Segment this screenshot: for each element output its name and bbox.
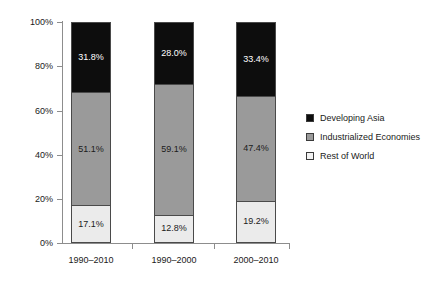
- legend-item-rest-of-world[interactable]: Rest of World: [306, 148, 420, 163]
- segment-value-label: 12.8%: [161, 224, 187, 233]
- legend-swatch-icon: [306, 114, 314, 122]
- x-axis-label-1990-2000: 1990–2000: [129, 255, 219, 265]
- legend-label: Rest of World: [320, 151, 374, 161]
- y-axis-label-80: 80%: [13, 61, 53, 71]
- legend-item-industrialized-economies[interactable]: Industrialized Economies: [306, 129, 420, 144]
- y-axis-label-100: 100%: [13, 17, 53, 27]
- segment-developing-asia-1990-2010[interactable]: 31.8%: [71, 22, 111, 92]
- x-axis-tick-2: [289, 244, 290, 249]
- y-axis-tick-60: [57, 111, 62, 112]
- y-axis-tick-80: [57, 66, 62, 67]
- segment-value-label: 19.2%: [243, 217, 269, 226]
- bar-1990-2010[interactable]: 31.8% 51.1% 17.1%: [71, 22, 111, 243]
- stacked-bar-chart: 100% 80% 60% 40% 20% 0% 1990–2010 1990–2…: [0, 0, 437, 284]
- y-axis-tick-100: [57, 22, 62, 23]
- y-axis-label-60: 60%: [13, 106, 53, 116]
- x-axis-label-2000-2010: 2000–2010: [211, 255, 301, 265]
- segment-rest-of-world-2000-2010[interactable]: 19.2%: [236, 201, 276, 243]
- plot-area: 31.8% 51.1% 17.1% 28.0% 59.1% 12.8%: [63, 22, 290, 243]
- segment-value-label: 47.4%: [243, 144, 269, 153]
- chart-legend: Developing Asia Industrialized Economies…: [306, 110, 420, 167]
- segment-rest-of-world-1990-2010[interactable]: 17.1%: [71, 205, 111, 243]
- segment-value-label: 28.0%: [161, 49, 187, 58]
- y-axis-tick-20: [57, 199, 62, 200]
- legend-label: Industrialized Economies: [320, 132, 420, 142]
- segment-industrialized-economies-2000-2010[interactable]: 47.4%: [236, 96, 276, 201]
- y-axis-label-20: 20%: [13, 194, 53, 204]
- y-axis-tick-40: [57, 155, 62, 156]
- segment-industrialized-economies-1990-2010[interactable]: 51.1%: [71, 92, 111, 205]
- x-axis-label-1990-2010: 1990–2010: [46, 255, 136, 265]
- segment-value-label: 51.1%: [78, 145, 104, 154]
- x-axis-line: [62, 243, 290, 244]
- segment-developing-asia-2000-2010[interactable]: 33.4%: [236, 22, 276, 96]
- legend-swatch-icon: [306, 152, 314, 160]
- segment-value-label: 17.1%: [78, 220, 104, 229]
- bar-1990-2000[interactable]: 28.0% 59.1% 12.8%: [154, 22, 194, 243]
- y-axis-tick-0: [57, 243, 62, 244]
- y-axis-label-40: 40%: [13, 150, 53, 160]
- segment-industrialized-economies-1990-2000[interactable]: 59.1%: [154, 84, 194, 215]
- segment-developing-asia-1990-2000[interactable]: 28.0%: [154, 22, 194, 84]
- legend-label: Developing Asia: [320, 113, 385, 123]
- segment-value-label: 31.8%: [78, 53, 104, 62]
- legend-swatch-icon: [306, 133, 314, 141]
- legend-item-developing-asia[interactable]: Developing Asia: [306, 110, 420, 125]
- x-axis-tick-1: [214, 244, 215, 249]
- y-axis-label-0: 0%: [13, 238, 53, 248]
- x-axis-tick-0: [132, 244, 133, 249]
- segment-value-label: 33.4%: [243, 55, 269, 64]
- bar-2000-2010[interactable]: 33.4% 47.4% 19.2%: [236, 22, 276, 243]
- segment-rest-of-world-1990-2000[interactable]: 12.8%: [154, 215, 194, 244]
- segment-value-label: 59.1%: [161, 145, 187, 154]
